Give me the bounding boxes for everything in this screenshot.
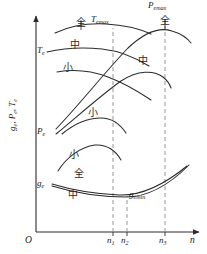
curve-label-torque-full: 全: [76, 18, 86, 28]
x-tick-label-n2: n2: [121, 236, 129, 245]
y-axis-label-pe: Pe: [7, 111, 17, 119]
annotation-p-emax: Pemax: [148, 1, 166, 10]
annotation-pe: Pe: [37, 127, 45, 136]
x-axis-label: n: [190, 236, 195, 246]
curve-label-power-full: 全: [160, 16, 170, 26]
annotation-te: Te: [37, 46, 45, 55]
x-tick-label-n3: n3: [159, 236, 167, 245]
curve-label-fuel-full: 全: [74, 169, 84, 179]
origin-label: O: [25, 236, 32, 246]
curve-label-fuel-medium: 中: [68, 190, 78, 200]
y-axis-label-ge: ge: [7, 124, 17, 131]
curve-fuel-small: [58, 145, 121, 171]
curve-label-fuel-small: 小: [69, 150, 79, 160]
curve-label-power-small: 小: [88, 108, 98, 118]
x-tick-label-n1: n1: [107, 236, 115, 245]
y-axis-label: ge, Pe, Te: [7, 79, 17, 151]
curve-power-medium: [56, 72, 171, 134]
curve-label-torque-small: 小: [63, 63, 73, 73]
curve-label-torque-medium: 中: [70, 40, 80, 50]
y-axis-label-te: Te: [7, 99, 17, 107]
annotation-ge: ge: [37, 179, 44, 188]
curve-torque-full: [55, 24, 151, 34]
curve-label-power-medium: 中: [138, 56, 148, 66]
annotation-g-emin: gemin: [129, 190, 145, 199]
annotation-t-emax: Temax: [91, 15, 109, 24]
chart-canvas: [0, 0, 207, 254]
engine-characteristic-chart: ge, Pe, Te O n n1 n2 n3 Temax Pemax gemi…: [0, 0, 207, 254]
